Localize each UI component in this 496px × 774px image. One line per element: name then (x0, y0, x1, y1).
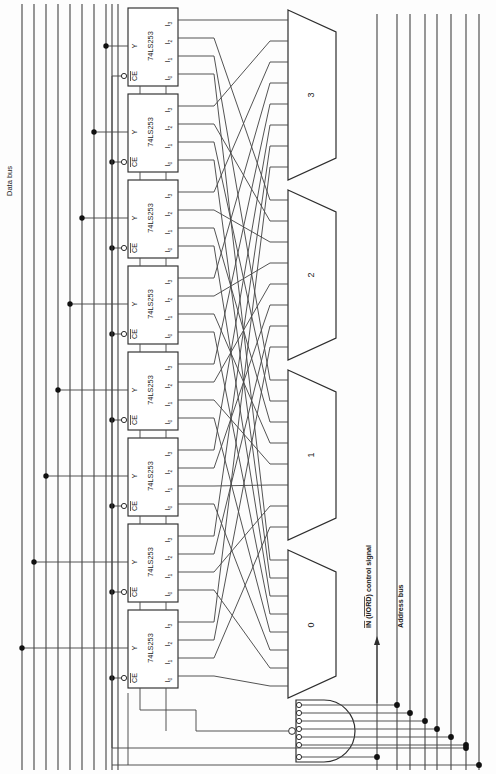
multiplexer-label: 1 (306, 452, 316, 457)
pin-ce: CE (130, 157, 139, 167)
pin-y: Y (130, 645, 139, 650)
chip-label: 74LS253 (146, 633, 155, 663)
pin-ce: CE (130, 673, 139, 683)
pin-y: Y (130, 559, 139, 564)
chip-label: 74LS253 (146, 117, 155, 147)
multiplexer-label: 3 (306, 92, 316, 97)
pin-y: Y (130, 215, 139, 220)
schematic-canvas: .wire{stroke:#3a3a3a;stroke-width:1.05;f… (0, 0, 496, 774)
control-signal-label: IN (I/ORD) control signal (364, 545, 373, 628)
pin-y: Y (130, 387, 139, 392)
pin-ce: CE (130, 329, 139, 339)
pin-y: Y (130, 301, 139, 306)
pin-y: Y (130, 43, 139, 48)
multiplexer-label: 2 (306, 272, 316, 277)
iord-signal-text: I/ORD (364, 596, 373, 616)
pin-ce: CE (130, 415, 139, 425)
multiplexer-label: 0 (306, 622, 316, 627)
pin-ce: CE (130, 243, 139, 253)
in-signal-text: IN (364, 621, 373, 628)
chip-label: 74LS253 (146, 289, 155, 319)
schematic-svg: .wire{stroke:#3a3a3a;stroke-width:1.05;f… (0, 0, 496, 774)
chip-label: 74LS253 (146, 461, 155, 491)
nand-output-bubble (289, 728, 296, 735)
chip-label: 74LS253 (146, 203, 155, 233)
chip-label: 74LS253 (146, 375, 155, 405)
pin-ce: CE (130, 71, 139, 81)
pin-y: Y (130, 473, 139, 478)
background (0, 0, 496, 774)
data-bus-label: Data bus (5, 166, 14, 196)
pin-ce: CE (130, 587, 139, 597)
pin-y: Y (130, 129, 139, 134)
address-bus-label: Address bus (396, 584, 405, 628)
chip-label: 74LS253 (146, 31, 155, 61)
pin-ce: CE (130, 501, 139, 511)
chip-label: 74LS253 (146, 547, 155, 577)
